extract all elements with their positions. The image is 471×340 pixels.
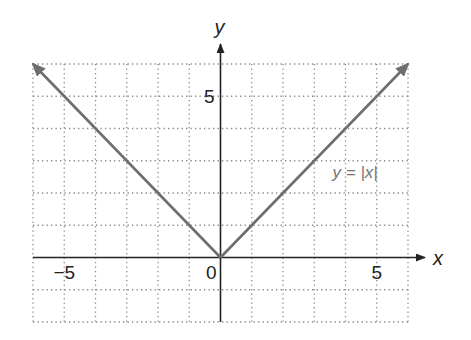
y-tick-label: 5 (204, 86, 215, 107)
y-axis-label: y (213, 16, 226, 38)
x-axis-label: x (432, 247, 444, 269)
x-tick-label: 5 (371, 262, 382, 283)
x-tick-label: −5 (53, 262, 75, 283)
x-tick-label: 0 (206, 262, 217, 283)
abs-value-graph: xy−5055y = |x| (0, 0, 471, 340)
function-label: y = |x| (332, 163, 378, 182)
